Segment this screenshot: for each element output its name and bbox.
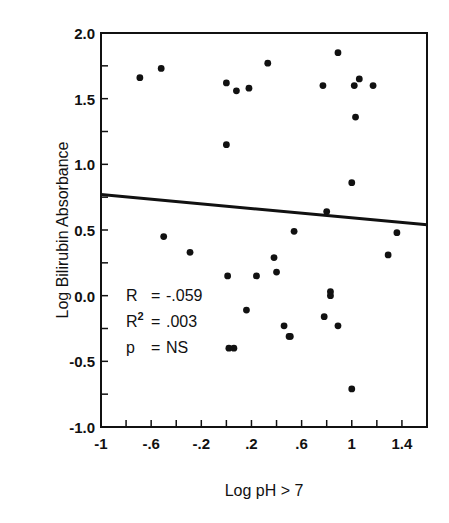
data-point <box>231 345 238 352</box>
data-point <box>264 60 271 67</box>
data-point <box>287 333 294 340</box>
data-point <box>335 49 342 56</box>
data-point <box>323 208 330 215</box>
x-axis-tick-labels: -1-.6-.2.2.611.4 <box>94 435 413 452</box>
data-point <box>385 252 392 259</box>
x-tick-label: 1.4 <box>391 435 413 452</box>
x-tick-label: -1 <box>94 435 107 452</box>
data-point <box>273 269 280 276</box>
x-tick-label: 1 <box>348 435 356 452</box>
y-tick-label: 1.0 <box>74 156 95 173</box>
y-axis-title: Log Bilirubin Absorbance <box>54 141 71 318</box>
data-point <box>281 322 288 329</box>
y-axis-tick-labels: 2.01.51.00.50.0-0.5-1.0 <box>69 25 95 436</box>
plot-frame <box>101 33 427 427</box>
data-point <box>320 82 327 89</box>
x-tick-label: -.6 <box>142 435 160 452</box>
y-tick-label: -0.5 <box>69 353 95 370</box>
x-tick-label: -.2 <box>193 435 211 452</box>
y-axis-ticks <box>101 33 108 427</box>
data-point <box>136 74 143 81</box>
data-point <box>348 386 355 393</box>
data-point <box>271 254 278 261</box>
stat-value: .003 <box>166 313 197 330</box>
y-tick-label: 0.5 <box>74 222 95 239</box>
data-point <box>223 80 230 87</box>
y-tick-label: 1.5 <box>74 91 95 108</box>
stat-equals: = <box>151 339 160 356</box>
plot-border <box>101 33 427 427</box>
data-point <box>246 85 253 92</box>
data-point <box>160 233 167 240</box>
data-point <box>224 273 231 280</box>
x-axis-ticks <box>101 420 402 427</box>
y-tick-label: -1.0 <box>69 419 95 436</box>
data-point <box>243 307 250 314</box>
data-point <box>253 273 260 280</box>
data-point <box>187 249 194 256</box>
regression-line <box>101 195 427 225</box>
data-point <box>356 76 363 83</box>
stat-label: R <box>126 287 138 304</box>
x-tick-label: .2 <box>245 435 258 452</box>
data-point <box>335 322 342 329</box>
stat-label: R2 <box>126 310 144 330</box>
data-point <box>223 141 230 148</box>
stat-label: p <box>126 339 135 356</box>
data-point <box>348 179 355 186</box>
y-tick-label: 2.0 <box>74 25 95 42</box>
data-point <box>352 114 359 121</box>
data-point <box>327 292 334 299</box>
stat-equals: = <box>151 287 160 304</box>
stat-value: NS <box>166 339 188 356</box>
statistics-annotation: R=-.059R2=.003p=NS <box>126 287 203 356</box>
data-point <box>233 87 240 94</box>
data-point <box>351 82 358 89</box>
stat-equals: = <box>151 313 160 330</box>
data-point <box>321 313 328 320</box>
scatter-chart: 2.01.51.00.50.0-0.5-1.0 -1-.6-.2.2.611.4… <box>0 0 449 523</box>
data-point <box>291 228 298 235</box>
x-tick-label: .6 <box>295 435 308 452</box>
x-axis-title: Log pH > 7 <box>225 482 304 499</box>
data-point <box>394 229 401 236</box>
data-point <box>158 65 165 72</box>
y-tick-label: 0.0 <box>74 288 95 305</box>
data-point <box>370 82 377 89</box>
stat-value: -.059 <box>166 287 203 304</box>
